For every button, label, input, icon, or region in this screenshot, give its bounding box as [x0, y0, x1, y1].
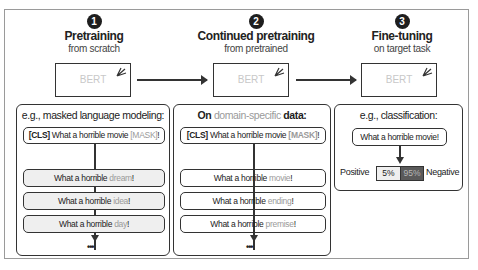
neural-network-icon — [422, 67, 433, 77]
panel-domain-specific: On domain-specific data: [CLS] What a ho… — [173, 104, 331, 256]
step-1-header: 1 Pretraining from scratch — [44, 14, 144, 54]
negative-prob: 95% — [401, 167, 423, 180]
input-text: What a horrible movie — [50, 130, 131, 140]
panel-masked-lm: e.g., masked language modeling: [CLS] Wh… — [16, 104, 170, 256]
title-post: data: — [281, 109, 307, 121]
down-arrow — [396, 157, 404, 164]
step-number-1: 1 — [87, 14, 102, 29]
mask-token: [MASK] — [288, 130, 317, 140]
predicted-word: day — [114, 219, 127, 229]
prediction-end: ! — [290, 173, 292, 183]
input-text: What a horrible movie — [208, 130, 289, 140]
step-number-2: 2 — [249, 14, 264, 29]
prediction-prefix: What a horrible — [214, 173, 269, 183]
title-highlight: domain-specific — [214, 109, 281, 121]
prediction-1: What a horrible movie! — [180, 169, 326, 187]
prediction-end: ! — [127, 219, 129, 229]
step-1-subtitle: from scratch — [44, 43, 144, 54]
mask-token: [MASK] — [130, 130, 157, 140]
cls-token: [CLS] — [187, 130, 208, 140]
prediction-prefix: What a horrible — [58, 196, 113, 206]
bert-model-box-3: BERT — [361, 63, 437, 97]
predicted-word: ending — [268, 196, 292, 206]
input-end: ! — [157, 130, 159, 140]
classification-input: What a horrible movie! — [352, 128, 447, 146]
masked-input-sentence: [CLS] What a horrible movie [MASK]! — [180, 127, 326, 144]
prediction-prefix: What a horrible — [54, 173, 109, 183]
step-3-header: 3 Fine-tuning on target task — [357, 14, 447, 54]
prediction-end: ! — [291, 196, 293, 206]
panel-classification: e.g., classification: What a horrible mo… — [334, 104, 463, 191]
prediction-prefix: What a horrible — [210, 219, 265, 229]
input-end: ! — [317, 130, 319, 140]
down-arrow — [250, 235, 258, 242]
arrow-2-to-3 — [296, 79, 356, 81]
neural-network-icon — [116, 67, 127, 77]
ellipsis: ••• — [87, 242, 93, 252]
title-pre: On — [198, 109, 214, 121]
prediction-2: What a horrible ending! — [180, 192, 326, 210]
prediction-end: ! — [132, 173, 134, 183]
down-arrow — [91, 235, 99, 242]
negative-label: Negative — [426, 167, 459, 177]
neural-network-icon — [274, 67, 285, 77]
step-2-title: Continued pretraining — [196, 30, 316, 43]
arrow-1-to-2 — [137, 79, 207, 81]
predicted-word: movie — [269, 173, 290, 183]
bert-model-box-1: BERT — [55, 63, 131, 97]
panel-1-title: e.g., masked language modeling: — [17, 109, 169, 121]
ellipsis: ••• — [246, 242, 252, 252]
cls-token: [CLS] — [29, 130, 50, 140]
bert-model-box-2: BERT — [213, 63, 289, 97]
prediction-3: What a horrible premise! — [180, 215, 326, 233]
prediction-end: ! — [294, 219, 296, 229]
step-2-header: 2 Continued pretraining from pretrained — [196, 14, 316, 54]
prediction-end: ! — [128, 196, 130, 206]
prediction-3: What a horrible day! — [23, 215, 165, 233]
panel-3-title: e.g., classification: — [335, 109, 462, 121]
positive-prob: 5% — [377, 167, 401, 180]
step-1-title: Pretraining — [44, 30, 144, 43]
prediction-prefix: What a horrible — [213, 196, 268, 206]
masked-input-sentence: [CLS] What a horrible movie [MASK]! — [23, 127, 165, 144]
step-2-subtitle: from pretrained — [196, 43, 316, 54]
predicted-word: premise — [266, 219, 294, 229]
step-number-3: 3 — [395, 14, 410, 29]
predicted-word: idea — [113, 196, 128, 206]
step-3-subtitle: on target task — [357, 43, 447, 54]
prediction-1: What a horrible dream! — [23, 169, 165, 187]
step-3-title: Fine-tuning — [357, 30, 447, 43]
probability-bar: 5% 95% — [376, 166, 424, 181]
positive-label: Positive — [340, 167, 369, 177]
prediction-prefix: What a horrible — [59, 219, 114, 229]
prediction-2: What a horrible idea! — [23, 192, 165, 210]
panel-2-title: On domain-specific data: — [174, 109, 330, 121]
predicted-word: dream — [109, 173, 132, 183]
